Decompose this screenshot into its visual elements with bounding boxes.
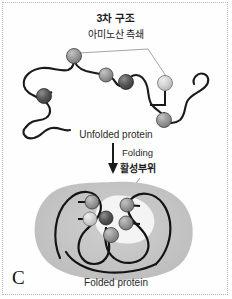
sphere-u5 <box>158 76 173 91</box>
folding-label: Folding <box>122 148 153 158</box>
protein-folding-figure: 3차 구조 아미노산 측쇄 Unfolded protein Folding 활… <box>0 0 232 299</box>
sphere-f3 <box>99 211 113 225</box>
sphere-u6 <box>157 113 172 128</box>
folding-arrow <box>108 143 118 174</box>
active-site-label: 활성부위 <box>120 164 156 174</box>
sphere-u4 <box>119 75 134 90</box>
tertiary-structure-label: 3차 구조 <box>0 13 232 24</box>
amino-acid-side-chain-label: 아미노산 측쇄 <box>0 30 232 40</box>
sphere-u1 <box>67 49 82 64</box>
sphere-u3 <box>99 68 113 82</box>
sphere-f1 <box>85 195 99 209</box>
sphere-u2 <box>37 89 52 104</box>
sphere-f4 <box>104 228 119 243</box>
sphere-f5 <box>120 198 134 212</box>
panel-letter-label: C <box>12 268 25 287</box>
unfolded-side-chain-spheres <box>37 49 173 128</box>
folded-protein-label: Folded protein <box>0 278 232 288</box>
sphere-f2 <box>83 212 97 226</box>
unfolded-protein-label: Unfolded protein <box>0 130 232 140</box>
sphere-f6 <box>119 216 133 230</box>
figure-artwork <box>0 0 232 299</box>
